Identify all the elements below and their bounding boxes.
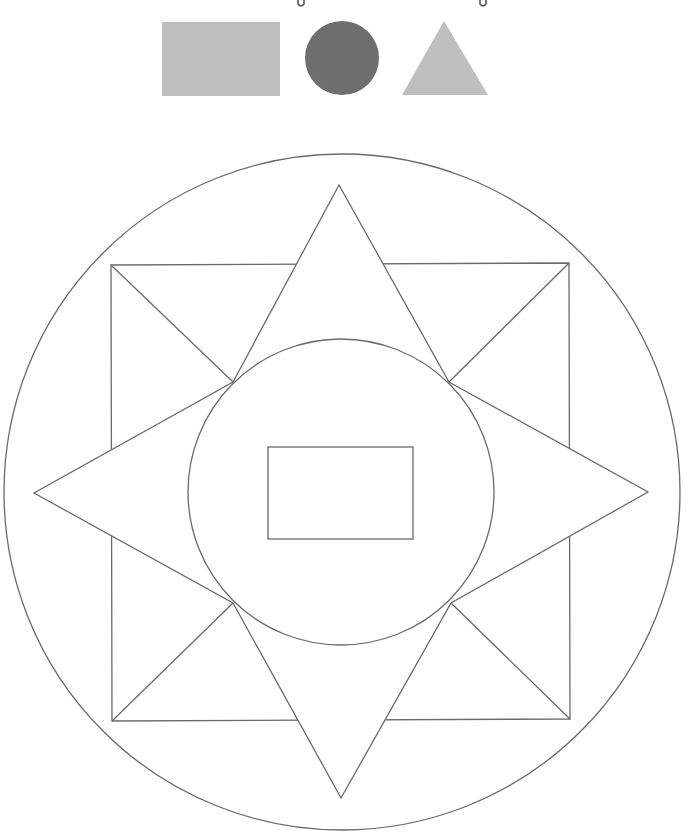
legend-shapes — [162, 21, 488, 96]
gray-rectangle — [162, 22, 280, 96]
hook-mark-left — [298, 0, 304, 6]
square-diagonal — [449, 263, 569, 382]
top-marks — [298, 0, 486, 6]
geometric-diagram-canvas — [0, 0, 690, 832]
hook-mark-right — [480, 0, 486, 6]
square-diagonal — [111, 265, 233, 382]
inner-circle — [188, 339, 494, 645]
dark-gray-circle — [305, 21, 379, 95]
gray-triangle — [402, 21, 488, 95]
square-diagonal — [112, 603, 233, 721]
mandala-diagram — [4, 154, 680, 830]
square-diagonal — [451, 603, 570, 719]
